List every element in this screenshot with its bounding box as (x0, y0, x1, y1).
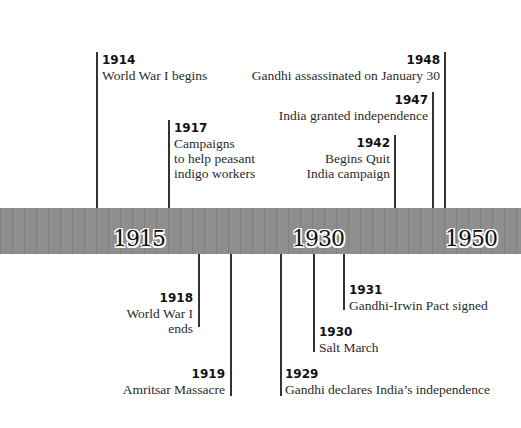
axis-label-1915: 1915 (113, 226, 165, 252)
event-1931: 1931 Gandhi-Irwin Pact signed (349, 282, 488, 313)
event-year: 1919 (123, 366, 225, 382)
connector-1930 (313, 254, 315, 352)
connector-1947 (432, 92, 434, 208)
axis-label-1950: 1950 (445, 226, 497, 252)
event-description: Gandhi-Irwin Pact signed (349, 298, 488, 313)
event-1929: 1929 Gandhi declares India’s independenc… (285, 366, 490, 397)
connector-1914 (96, 52, 98, 208)
event-description: Campaigns to help peasant indigo workers (174, 136, 255, 181)
connector-1918 (198, 254, 200, 327)
connector-1948 (444, 52, 446, 208)
event-description: India granted independence (279, 108, 428, 123)
event-description: World War I ends (126, 306, 193, 336)
event-year: 1947 (279, 92, 428, 108)
connector-1919 (230, 254, 232, 396)
event-1919: 1919 Amritsar Massacre (123, 366, 225, 397)
connector-1929 (280, 254, 282, 396)
event-description: Begins Quit India campaign (306, 151, 390, 181)
gandhi-timeline: 1915 1930 1950 1914 World War I begins 1… (0, 0, 521, 428)
event-year: 1917 (174, 120, 255, 136)
event-1918: 1918 World War I ends (126, 290, 193, 336)
axis-label-1930: 1930 (292, 226, 344, 252)
event-year: 1929 (285, 366, 490, 382)
event-description: World War I begins (102, 68, 207, 83)
event-1914: 1914 World War I begins (102, 52, 207, 83)
event-1947: 1947 India granted independence (279, 92, 428, 123)
connector-1942 (394, 135, 396, 208)
event-description: Gandhi assassinated on January 30 (252, 68, 440, 83)
event-year: 1930 (319, 324, 379, 340)
event-year: 1918 (126, 290, 193, 306)
event-year: 1948 (252, 52, 440, 68)
event-description: Amritsar Massacre (123, 382, 225, 397)
event-year: 1942 (306, 135, 390, 151)
event-description: Salt March (319, 340, 379, 355)
event-1917: 1917 Campaigns to help peasant indigo wo… (174, 120, 255, 181)
connector-1931 (343, 254, 345, 310)
event-year: 1931 (349, 282, 488, 298)
event-1948: 1948 Gandhi assassinated on January 30 (252, 52, 440, 83)
timeline-bar (0, 208, 521, 254)
event-year: 1914 (102, 52, 207, 68)
event-1930: 1930 Salt March (319, 324, 379, 355)
event-description: Gandhi declares India’s independence (285, 382, 490, 397)
connector-1917 (168, 120, 170, 208)
event-1942: 1942 Begins Quit India campaign (306, 135, 390, 181)
